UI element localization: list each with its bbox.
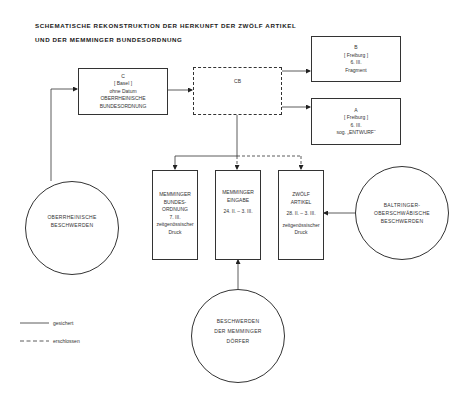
eingabe-date: 24. II. – 3. III.: [223, 208, 252, 216]
bundesordnung-line-2: BUNDES-: [164, 199, 187, 207]
box-b-letter: B: [354, 44, 357, 52]
box-c-name-2: BUNDESORDNUNG: [100, 103, 147, 111]
circle-baltringer-beschwerden: BALTRINGER- OBERSCHWÄBISCHE BESCHWERDEN: [355, 166, 449, 260]
box-c-name-1: OBERRHEINISCHE: [100, 95, 145, 103]
bundesordnung-line-3: ORDNUNG: [162, 206, 188, 214]
box-a-place: [ Freiburg ]: [344, 114, 368, 122]
box-b-fragment: B [ Freiburg ] 6. III. Fragment: [311, 36, 401, 82]
box-zwoelf-artikel: ZWÖLF ARTIKEL 28. II. – 3. III. zeitgenö…: [278, 170, 324, 260]
eingabe-line-2: EINGABE: [227, 197, 249, 205]
memmingen-line-2: DER MEMMINGER: [214, 326, 262, 336]
box-a-letter: A: [354, 107, 357, 115]
artikel-line-1: ZWÖLF: [292, 191, 310, 199]
box-c-date: ohne Datum: [109, 88, 136, 96]
bundesordnung-date: 7. III.: [169, 214, 180, 222]
bundesordnung-note-2: Druck: [168, 229, 181, 237]
baltringer-line-3: BESCHWERDEN: [381, 217, 424, 225]
circle-oberrheinische-beschwerden: OBERRHEINISCHE BESCHWERDEN: [25, 181, 119, 275]
box-b-note: Fragment: [345, 67, 366, 75]
circle-memminger-doerfer-beschwerden: BESCHWERDEN DER MEMMINGER DÖRFER: [191, 289, 285, 383]
artikel-date: 28. II. – 3. III.: [286, 210, 315, 218]
oberrhein-line-2: BESCHWERDEN: [51, 221, 94, 229]
box-b-place: [ Freiburg ]: [344, 52, 368, 60]
memmingen-line-3: DÖRFER: [227, 336, 250, 346]
artikel-line-2: ARTIKEL: [291, 199, 312, 207]
box-a-entwurf: A [ Freiburg ] 6. III. sog. „ENTWURF“: [311, 98, 401, 145]
bundesordnung-note-1: zeitgenössischer: [156, 221, 193, 229]
baltringer-line-2: OBERSCHWÄBISCHE: [374, 209, 430, 217]
artikel-note-2: Druck: [294, 229, 307, 237]
box-a-date: 6. III.: [350, 122, 361, 130]
box-memminger-eingabe: MEMMINGER EINGABE 24. II. – 3. III.: [215, 170, 261, 260]
box-c-letter: C: [121, 73, 125, 81]
bundesordnung-line-1: MEMMINGER: [159, 191, 191, 199]
box-cb: CB: [193, 67, 282, 115]
box-cb-label: CB: [234, 78, 241, 86]
oberrhein-line-1: OBERRHEINISCHE: [47, 213, 96, 221]
legend-dashed-label: erschlossen: [53, 338, 80, 344]
artikel-note-1: zeitgenössischer: [282, 222, 319, 230]
memmingen-line-1: BESCHWERDEN: [217, 316, 260, 326]
box-c-place: [ Basel ]: [114, 80, 132, 88]
box-c-oberrheinische-bundesordnung: C [ Basel ] ohne Datum OBERRHEINISCHE BU…: [78, 68, 168, 115]
box-b-date: 6. III.: [350, 59, 361, 67]
legend-solid-label: gesichert: [53, 320, 73, 326]
eingabe-line-1: MEMMINGER: [222, 189, 254, 197]
baltringer-line-1: BALTRINGER-: [384, 201, 421, 209]
box-a-note: sog. „ENTWURF“: [336, 129, 375, 137]
box-memminger-bundesordnung: MEMMINGER BUNDES- ORDNUNG 7. III. zeitge…: [152, 170, 198, 260]
